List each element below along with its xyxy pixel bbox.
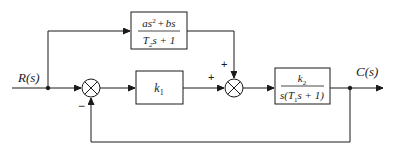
plant-block: k2 s(T1s + 1) (275, 68, 330, 104)
feedforward-block: as2+bs T2s + 1 (131, 12, 187, 49)
input-label-r: R(s) (17, 70, 40, 85)
sum2-plus-sign-top: + (221, 58, 227, 70)
sum2-plus-sign-left: + (208, 71, 214, 83)
summing-junction-2 (225, 79, 243, 97)
feedforward-numerator: as2+bs (142, 17, 175, 29)
block-diagram: R(s) as2+bs T2s + 1 − k1 (0, 0, 393, 156)
summing-junction-1 (82, 79, 100, 97)
output-label-c: C(s) (356, 64, 378, 79)
controller-block-k1: k1 (136, 71, 183, 104)
sum1-minus-sign: − (78, 99, 85, 113)
